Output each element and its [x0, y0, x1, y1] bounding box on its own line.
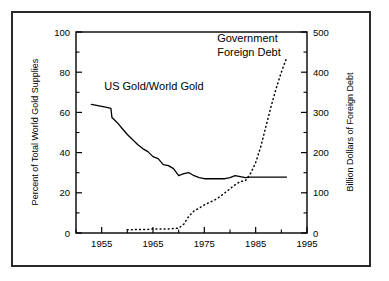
y-tick-label: 80: [59, 67, 70, 78]
x-axis-tick-labels: 19551965197519851995: [91, 238, 317, 249]
y-axis-left-title: Percent of Total World Gold Supplies: [30, 58, 40, 205]
series-annotation-label: Foreign Debt: [217, 46, 281, 58]
y2-tick-label: 300: [313, 107, 329, 118]
y2-tick-label: 500: [313, 27, 329, 38]
y2-tick-label: 200: [313, 147, 329, 158]
figure-root: 19551965197519851995 020406080100 010020…: [0, 0, 389, 281]
y-axis-left-ticks: [76, 32, 82, 233]
y-tick-label: 40: [59, 147, 70, 158]
x-tick-label: 1985: [245, 238, 266, 249]
y2-tick-label: 100: [313, 187, 329, 198]
dual-axis-line-chart: 19551965197519851995 020406080100 010020…: [0, 0, 389, 281]
y-tick-label: 20: [59, 187, 70, 198]
plot-area-frame: [76, 32, 307, 233]
x-tick-label: 1955: [91, 238, 112, 249]
y2-tick-label: 400: [313, 67, 329, 78]
y2-tick-label: 0: [313, 228, 318, 239]
y-axis-right-tick-labels: 0100200300400500: [313, 27, 329, 239]
y-tick-label: 0: [65, 228, 70, 239]
chart-annotations: US Gold/World GoldGovernmentForeign Debt: [104, 32, 281, 92]
series-annotation-label: Government: [217, 32, 278, 44]
y-tick-label: 60: [59, 107, 70, 118]
series-line-us-gold-world-gold: [91, 104, 286, 178]
series-annotation-label: US Gold/World Gold: [104, 80, 203, 92]
y-axis-left-tick-labels: 020406080100: [54, 27, 70, 239]
x-tick-label: 1965: [142, 238, 163, 249]
y-axis-right-title: Billion Dollars of Foreign Debt: [345, 72, 355, 192]
y-tick-label: 100: [54, 27, 70, 38]
y-axis-right-ticks: [301, 32, 307, 233]
x-tick-label: 1975: [194, 238, 215, 249]
x-axis-ticks: [76, 227, 307, 233]
x-tick-label: 1995: [296, 238, 317, 249]
